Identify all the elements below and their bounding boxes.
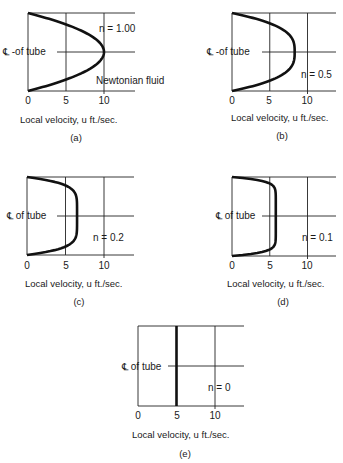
panel-e-tick-5: 5 [174, 411, 180, 421]
panel-e-centerline-label: ℄ of tube [122, 362, 161, 372]
panel-a-newtonian-annotation: Newtonian fluid [96, 76, 164, 86]
panel-b-centerline-label: ℄ -of tube [207, 47, 250, 57]
panel-c-tick-5: 5 [63, 261, 69, 271]
panel-d-centerline-label: ℄ of tube [216, 211, 255, 221]
velocity-profile-plots [0, 0, 343, 463]
panel-a-n-annotation: n = 1.00 [99, 24, 135, 34]
panel-a-x-axis-title: Local velocity, u ft./sec. [20, 115, 118, 125]
panel-e-tick-10: 10 [209, 411, 220, 421]
panel-c-caption: (c) [73, 297, 84, 307]
panel-e-n-annotation: n = 0 [208, 383, 231, 393]
panel-c-x-axis-title: Local velocity, u ft./sec. [25, 279, 123, 289]
panel-c-n-annotation: n = 0.2 [93, 233, 124, 243]
panel-b-caption: (b) [276, 131, 288, 141]
panel-b-tick-10: 10 [301, 96, 312, 106]
panel-e-x-axis-title: Local velocity, u ft./sec. [132, 430, 230, 440]
panel-d-n-annotation: n = 0.1 [302, 233, 333, 243]
panel-d-tick-5: 5 [267, 261, 273, 271]
panel-c-tick-0: 0 [24, 261, 30, 271]
panel-b-tick-0: 0 [229, 96, 235, 106]
panel-a-tick-0: 0 [25, 96, 31, 106]
panel-a-tick-5: 5 [63, 96, 69, 106]
panel-a-tick-10: 10 [98, 96, 109, 106]
panel-e-tick-0: 0 [135, 411, 141, 421]
panel-d-x-axis-title: Local velocity, u ft./sec. [227, 279, 325, 289]
panel-a-centerline-label: ℄ -of tube [3, 47, 46, 57]
panel-c-centerline-label: ℄ of tube [7, 211, 46, 221]
panel-b-x-axis-title: Local velocity, u ft./sec. [231, 113, 329, 123]
panel-a-caption: (a) [70, 133, 82, 143]
panel-d-tick-0: 0 [229, 261, 235, 271]
panel-c-tick-10: 10 [98, 261, 109, 271]
panel-b-n-annotation: n = 0.5 [301, 70, 332, 80]
panel-e-caption: (e) [179, 449, 191, 459]
panel-d-caption: (d) [277, 297, 289, 307]
panel-d-tick-10: 10 [301, 261, 312, 271]
panel-b-tick-5: 5 [266, 96, 272, 106]
